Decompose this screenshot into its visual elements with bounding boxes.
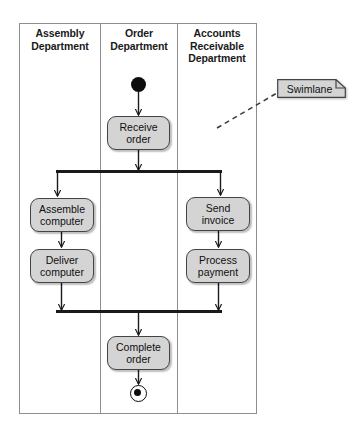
action-deliver-computer-line2: computer [40,266,84,279]
action-deliver-computer[interactable]: Deliver computer [30,249,94,283]
lane-header-accounts-line3: Department [188,52,245,64]
action-send-invoice-line2: invoice [202,214,235,227]
action-assemble-computer-line1: Assemble [39,203,85,216]
action-send-invoice-line1: Send [202,202,235,215]
lane-header-accounts-line1: Accounts [193,27,240,39]
action-assemble-computer[interactable]: Assemble computer [30,198,94,232]
swimlane-note-label: Swimlane [277,79,346,98]
action-receive-order-line1: Receive [120,121,158,134]
lane-divider-assembly-order [100,23,101,414]
lane-header-accounts-line2: Receivable [190,40,244,52]
action-deliver-computer-line1: Deliver [40,254,84,267]
action-process-payment-line2: payment [198,266,238,279]
lane-header-order-line2: Department [110,40,167,52]
action-assemble-computer-line2: computer [39,215,85,228]
action-complete-order-line2: order [116,353,161,366]
action-send-invoice[interactable]: Send invoice [186,197,250,231]
action-complete-order-line1: Complete [116,341,161,354]
lane-header-accounts: Accounts Receivable Department [178,27,256,65]
lane-header-order: Order Department [101,27,177,52]
diagram-canvas: Assembly Department Order Department Acc… [0,0,356,431]
lane-divider-order-accounts [177,23,178,414]
initial-node [131,77,146,92]
action-receive-order[interactable]: Receive order [107,116,170,150]
lane-header-assembly: Assembly Department [20,27,100,52]
action-receive-order-line2: order [120,133,158,146]
lane-header-order-line1: Order [125,27,153,39]
action-process-payment[interactable]: Process payment [186,249,250,283]
final-node [130,385,147,402]
swimlane-note[interactable]: Swimlane [277,79,346,98]
lane-header-assembly-line2: Department [31,40,88,52]
action-process-payment-line1: Process [198,254,238,267]
lane-header-assembly-line1: Assembly [36,27,85,39]
action-complete-order[interactable]: Complete order [107,336,170,370]
